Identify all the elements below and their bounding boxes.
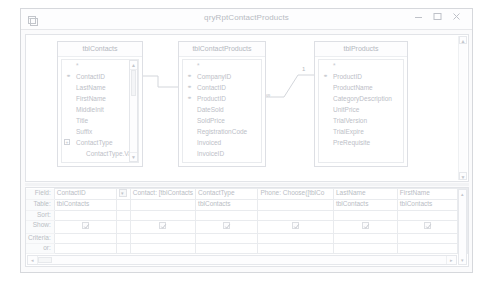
field-item[interactable]: DateSold <box>183 104 261 115</box>
field-item[interactable]: ProductName <box>319 82 403 93</box>
scroll-down-icon[interactable]: ▾ <box>459 256 466 264</box>
primary-key-icon: ⚭ <box>187 93 192 104</box>
query-design-grid[interactable]: Field: ContactID ▾ Contact: [tblContacts… <box>26 188 468 254</box>
grid-cell-show[interactable] <box>258 221 333 234</box>
grid-cell-or[interactable] <box>196 244 258 254</box>
field-item[interactable]: UnitPrice <box>319 104 403 115</box>
chevron-down-icon[interactable]: ▾ <box>119 189 127 197</box>
field-item[interactable]: ContactType.Value <box>62 148 138 159</box>
field-item[interactable]: RegistrationCode <box>183 126 261 137</box>
maximize-button[interactable] <box>430 12 445 26</box>
field-item[interactable]: FirstName <box>62 93 138 104</box>
field-item[interactable]: BirthDate <box>62 159 138 163</box>
grid-cell-show[interactable] <box>397 221 457 234</box>
grid-cell-field[interactable]: FirstName <box>397 189 457 200</box>
field-item[interactable]: ⚭ProductID <box>183 93 261 104</box>
field-item[interactable]: TrialExpire <box>319 126 403 137</box>
grid-cell-field[interactable]: Contact: [tblContacts <box>130 189 195 200</box>
grid-cell-show[interactable] <box>54 221 116 234</box>
grid-cell-criteria[interactable] <box>54 234 116 244</box>
grid-cell-table[interactable]: tblContacts <box>196 200 258 211</box>
scroll-down-icon[interactable]: ▼ <box>130 152 137 161</box>
grid-cell-or[interactable] <box>54 244 116 254</box>
table-box-tblContacts[interactable]: tblContacts * ⚭ContactID LastName FirstN… <box>57 41 143 167</box>
field-item[interactable]: +ContactType <box>62 137 138 148</box>
scroll-right-icon[interactable]: ▸ <box>446 256 456 264</box>
grid-cell-table[interactable] <box>130 200 195 211</box>
grid-cell-field[interactable]: ContactID <box>54 189 116 200</box>
field-item[interactable]: Suffix <box>62 126 138 137</box>
table-diagram-pane[interactable]: ∞ 1 tblContacts * ⚭ContactID LastName Fi… <box>25 34 469 182</box>
field-list-tblContacts[interactable]: * ⚭ContactID LastName FirstName MiddleIn… <box>61 59 139 163</box>
show-checkbox[interactable] <box>159 222 166 229</box>
grid-cell-show[interactable] <box>196 221 258 234</box>
expand-icon[interactable]: + <box>64 139 70 145</box>
grid-cell-criteria[interactable] <box>258 234 333 244</box>
show-checkbox[interactable] <box>292 222 299 229</box>
grid-cell-show[interactable] <box>130 221 195 234</box>
grid-cell-table[interactable] <box>258 200 333 211</box>
grid-cell-criteria[interactable] <box>130 234 195 244</box>
field-item[interactable]: ⚭ProductID <box>319 71 403 82</box>
grid-cell-table[interactable]: tblContacts <box>397 200 457 211</box>
field-item[interactable]: SoldPrice <box>183 115 261 126</box>
scroll-down-icon[interactable]: ▼ <box>459 172 467 180</box>
grid-cell-or[interactable] <box>333 244 397 254</box>
diagram-vertical-scrollbar[interactable]: ▲ ▼ <box>458 36 467 180</box>
grid-cell-table[interactable]: tblContacts <box>54 200 116 211</box>
grid-cell-sort[interactable] <box>333 211 397 221</box>
grid-horizontal-scrollbar[interactable]: ◂ ▸ <box>27 255 457 265</box>
grid-cell-table[interactable]: tblContacts <box>333 200 397 211</box>
scroll-left-icon[interactable]: ◂ <box>28 256 38 264</box>
grid-cell-field[interactable]: ContactType <box>196 189 258 200</box>
field-item[interactable]: LastName <box>62 82 138 93</box>
show-checkbox[interactable] <box>223 222 230 229</box>
field-item[interactable]: PreRequisite <box>319 137 403 148</box>
grid-cell-criteria[interactable] <box>196 234 258 244</box>
field-item[interactable]: * <box>319 60 403 71</box>
field-item[interactable]: Title <box>62 115 138 126</box>
field-item[interactable]: Invoiced <box>183 137 261 148</box>
show-checkbox[interactable] <box>82 222 89 229</box>
pane-splitter[interactable] <box>25 183 469 186</box>
field-list-tblProducts[interactable]: * ⚭ProductID ProductName CategoryDescrip… <box>318 59 404 163</box>
field-item[interactable]: ⚭ContactID <box>62 71 138 82</box>
grid-cell-sort[interactable] <box>54 211 116 221</box>
scroll-thumb[interactable] <box>38 257 52 263</box>
table-box-tblProducts[interactable]: tblProducts * ⚭ProductID ProductName Cat… <box>314 41 408 167</box>
show-checkbox[interactable] <box>424 222 431 229</box>
grid-cell-sort[interactable] <box>258 211 333 221</box>
grid-cell-or[interactable] <box>397 244 457 254</box>
field-item[interactable]: MiddleInit <box>62 104 138 115</box>
minimize-button[interactable] <box>411 12 426 26</box>
grid-cell-field[interactable]: LastName <box>333 189 397 200</box>
grid-cell-sort[interactable] <box>196 211 258 221</box>
grid-cell-criteria[interactable] <box>397 234 457 244</box>
field-item[interactable]: CategoryDescription <box>319 93 403 104</box>
grid-cell-or[interactable] <box>258 244 333 254</box>
scroll-up-icon[interactable]: ▴ <box>459 190 466 198</box>
table-box-tblContactProducts[interactable]: tblContactProducts * ⚭CompanyID ⚭Contact… <box>178 41 266 167</box>
grid-cell-show[interactable] <box>333 221 397 234</box>
grid-cell-field-dropdown[interactable]: ▾ <box>116 189 130 200</box>
field-item[interactable]: * <box>183 60 261 71</box>
grid-cell-criteria[interactable] <box>333 234 397 244</box>
field-item[interactable]: TrialVersion <box>319 115 403 126</box>
scroll-thumb[interactable] <box>131 70 136 96</box>
close-button[interactable] <box>449 12 464 26</box>
query-grid-pane[interactable]: Field: ContactID ▾ Contact: [tblContacts… <box>25 187 469 267</box>
table-scrollbar-tblContacts[interactable]: ▲ ▼ <box>129 60 138 162</box>
scroll-up-icon[interactable]: ▲ <box>459 36 467 44</box>
grid-cell-sort[interactable] <box>397 211 457 221</box>
field-item[interactable]: ⚭CompanyID <box>183 71 261 82</box>
grid-cell-or[interactable] <box>130 244 195 254</box>
grid-vertical-scrollbar[interactable]: ▴ ▾ <box>458 189 467 265</box>
field-item[interactable]: * <box>62 60 138 71</box>
grid-cell-field[interactable]: Phone: Choose([tblCo <box>258 189 333 200</box>
field-item[interactable]: ⚭ContactID <box>183 82 261 93</box>
field-list-tblContactProducts[interactable]: * ⚭CompanyID ⚭ContactID ⚭ProductID DateS… <box>182 59 262 163</box>
grid-cell-sort[interactable] <box>130 211 195 221</box>
field-item[interactable]: InvoiceID <box>183 148 261 159</box>
scroll-up-icon[interactable]: ▲ <box>130 61 137 70</box>
show-checkbox[interactable] <box>362 222 369 229</box>
